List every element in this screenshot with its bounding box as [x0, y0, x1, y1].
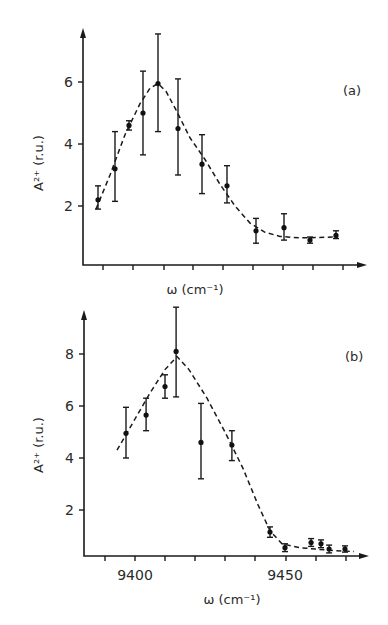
- y-tick-label: 4: [65, 450, 74, 466]
- data-point: [198, 403, 204, 478]
- y-tick-label: 4: [64, 136, 73, 152]
- panel-b-label: (b): [345, 349, 363, 364]
- data-point: [123, 407, 129, 458]
- panel-a: 246 (a) ω (cm⁻¹) A²⁺ (r.u.): [31, 28, 367, 297]
- data-point: [267, 527, 273, 537]
- data-point: [173, 307, 179, 397]
- data-point: [140, 71, 146, 155]
- panel-a-data-points: [95, 34, 339, 243]
- y-tick-label: 8: [65, 346, 74, 362]
- data-point: [326, 545, 332, 553]
- panel-a-xlabel: ω (cm⁻¹): [166, 282, 223, 297]
- data-point: [318, 540, 324, 548]
- y-axis-arrow-icon: [80, 28, 86, 38]
- x-tick-label: 9400: [117, 567, 153, 583]
- panel-b-ylabel: A²⁺ (r.u.): [31, 417, 46, 473]
- y-tick-label: 2: [65, 502, 74, 518]
- panel-b: 246894009450 (b) ω (cm⁻¹) A²⁺ (r.u.): [31, 307, 369, 607]
- fit-line: [96, 84, 338, 238]
- panel-b-axes: 246894009450: [65, 310, 369, 583]
- panel-a-ylabel: A²⁺ (r.u.): [31, 135, 46, 191]
- panel-a-axes: 246: [64, 28, 367, 270]
- data-point: [175, 79, 181, 175]
- x-axis-arrow-icon: [357, 262, 367, 268]
- panel-b-fit-curve: [117, 357, 354, 552]
- y-tick-label: 6: [65, 398, 74, 414]
- fit-line: [117, 357, 354, 552]
- panel-a-fit-curve: [96, 84, 338, 238]
- x-axis-arrow-icon: [359, 553, 369, 559]
- y-tick-label: 6: [64, 74, 73, 90]
- data-point: [253, 218, 259, 243]
- y-tick-label: 2: [64, 198, 73, 214]
- data-point: [199, 135, 205, 194]
- y-axis-arrow-icon: [81, 310, 87, 320]
- x-tick-label: 9450: [267, 567, 303, 583]
- data-point: [333, 231, 339, 239]
- data-point: [229, 431, 235, 461]
- data-point: [308, 539, 314, 547]
- panel-b-data-points: [123, 307, 348, 553]
- panel-a-label: (a): [343, 83, 361, 98]
- data-point: [162, 375, 168, 398]
- panel-b-xlabel: ω (cm⁻¹): [203, 592, 260, 607]
- data-point: [155, 34, 161, 132]
- axis-lines: [83, 36, 359, 265]
- figure: 246 (a) ω (cm⁻¹) A²⁺ (r.u.) 246894009450…: [0, 0, 388, 625]
